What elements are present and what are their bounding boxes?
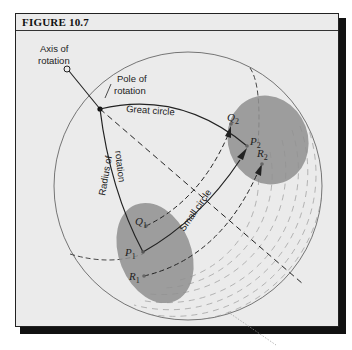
label-axis-2: rotation [38, 55, 70, 66]
label-small-circle: Small circle [177, 187, 214, 233]
label-pole-1: Pole of [117, 73, 147, 84]
label-radius-2: rotation [113, 150, 128, 183]
pointer-line [228, 312, 276, 345]
label-axis-1: Axis of [40, 43, 69, 54]
point-p1 [141, 250, 145, 254]
point-r2 [260, 162, 264, 166]
axis-line-front [69, 71, 100, 109]
pole-pointer [105, 84, 111, 98]
patch-2 [215, 84, 321, 196]
label-great-circle: Great circle [126, 103, 175, 117]
label-radius-1: Radius of [96, 155, 114, 197]
rotation-diagram: Axis of rotation Pole of rotation Great … [0, 0, 352, 350]
label-pole-2: rotation [114, 85, 146, 96]
point-p2 [245, 144, 249, 148]
point-r1 [142, 274, 146, 278]
arrowhead-q [225, 126, 231, 138]
